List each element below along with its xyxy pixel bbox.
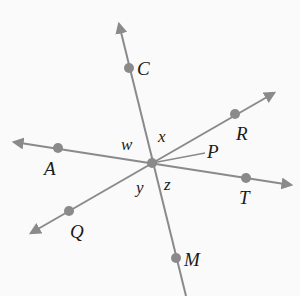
point-c	[124, 63, 134, 73]
geometry-diagram: C M A T R Q P w x y z	[0, 0, 300, 296]
label-q: Q	[70, 221, 84, 242]
point-center	[147, 158, 157, 168]
point-a	[53, 143, 63, 153]
label-r: R	[235, 123, 248, 144]
label-m: M	[183, 249, 201, 270]
point-q	[64, 206, 74, 216]
label-c: C	[137, 58, 150, 79]
point-t	[241, 173, 251, 183]
angle-x: x	[157, 127, 166, 146]
label-p: P	[206, 141, 219, 162]
label-a: A	[42, 158, 56, 179]
point-m	[171, 253, 181, 263]
angle-w: w	[121, 135, 133, 154]
angle-z: z	[163, 175, 171, 194]
point-r	[230, 109, 240, 119]
angle-y: y	[134, 178, 144, 197]
label-t: T	[239, 187, 251, 208]
